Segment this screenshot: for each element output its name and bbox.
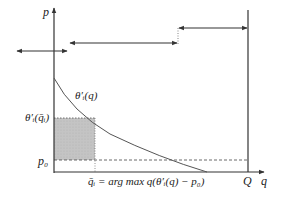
x-axis-label: q: [261, 175, 267, 187]
y-axis-label: p: [43, 6, 49, 18]
reserve-price-label: p₀: [38, 155, 48, 167]
curve-label: θ′ᵢ(q): [75, 90, 97, 101]
capacity-label: Q: [243, 175, 252, 187]
price-level-label: θ′ᵢ(q̄ᵢ): [25, 112, 49, 123]
optimal-quantity-annotation: q̄ᵢ = arg max q(θ′ᵢ(q) − p₀): [88, 176, 204, 187]
shaded-surplus-region: [54, 118, 95, 160]
